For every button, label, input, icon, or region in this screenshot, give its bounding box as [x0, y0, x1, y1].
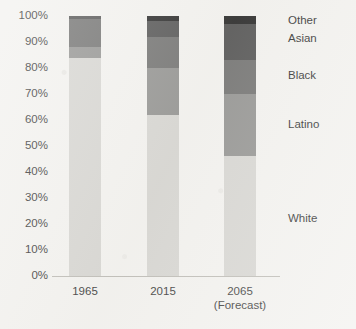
series-label-asian: Asian	[288, 34, 317, 46]
x-tick-label: 1965	[72, 285, 98, 297]
bar-segment-2015-white	[147, 115, 179, 276]
y-tick-label: 30%	[4, 192, 48, 204]
x-tick-1965: 1965	[40, 284, 130, 298]
y-tick-label: 70%	[4, 88, 48, 100]
y-tick-label: 10%	[4, 244, 48, 256]
bar-segment-2015-latino	[147, 68, 179, 115]
bar-1965	[69, 16, 101, 276]
series-label-latino: Latino	[288, 119, 319, 131]
x-tick-label: 2015	[150, 285, 176, 297]
series-label-white: White	[288, 213, 317, 225]
y-tick-label: 40%	[4, 166, 48, 178]
bar-2015	[147, 16, 179, 276]
x-tick-sublabel: (Forecast)	[195, 298, 285, 312]
stacked-bar-chart: 100%90%80%70%60%50%40%30%20%10%0% 196520…	[0, 0, 356, 329]
bar-segment-1965-asian	[69, 16, 101, 19]
y-tick-label: 100%	[4, 10, 48, 22]
bar-segment-2065-white	[224, 156, 256, 276]
y-tick-label: 50%	[4, 140, 48, 152]
y-tick-label: 0%	[4, 270, 48, 282]
bar-segment-2065-latino	[224, 94, 256, 156]
bar-segment-2065-black	[224, 60, 256, 94]
bar-segment-2065-other	[224, 16, 256, 24]
series-label-other: Other	[288, 15, 317, 27]
bar-segment-1965-black	[69, 19, 101, 48]
bar-segment-2065-asian	[224, 24, 256, 60]
bar-segment-2015-black	[147, 37, 179, 68]
bar-segment-1965-latino	[69, 47, 101, 57]
y-tick-label: 90%	[4, 36, 48, 48]
x-tick-2065: 2065(Forecast)	[195, 284, 285, 313]
y-axis: 100%90%80%70%60%50%40%30%20%10%0%	[0, 0, 48, 329]
bar-segment-2015-asian	[147, 21, 179, 37]
plot-area	[52, 16, 276, 276]
y-tick-label: 80%	[4, 62, 48, 74]
bar-2065	[224, 16, 256, 276]
x-axis-line	[52, 276, 280, 277]
series-label-black: Black	[288, 70, 316, 82]
y-tick-label: 20%	[4, 218, 48, 230]
bar-segment-2015-other	[147, 16, 179, 21]
y-tick-label: 60%	[4, 114, 48, 126]
bar-segment-1965-white	[69, 58, 101, 276]
x-tick-label: 2065	[227, 285, 253, 297]
